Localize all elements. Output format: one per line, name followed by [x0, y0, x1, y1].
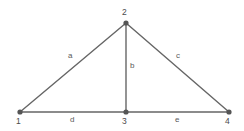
edge-label-b: b [130, 62, 134, 70]
vertex-label-4: 4 [225, 117, 230, 126]
edge-label-d: d [70, 116, 74, 124]
vertex-label-2: 2 [122, 8, 127, 17]
edge-a-line[interactable] [20, 23, 126, 112]
vertices-group [17, 20, 231, 114]
vertex-label-3: 3 [122, 117, 127, 126]
edges-group [20, 23, 229, 112]
vertex-2-dot[interactable] [123, 20, 128, 25]
edge-label-e: e [175, 116, 179, 124]
edge-label-c: c [176, 52, 180, 60]
vertex-1-dot[interactable] [17, 109, 22, 114]
edge-c-line[interactable] [126, 23, 229, 112]
vertex-label-1: 1 [16, 117, 21, 126]
vertex-4-dot[interactable] [226, 109, 231, 114]
diagram-canvas: 1 2 3 4 a b c d e [0, 0, 244, 131]
graph-svg [0, 0, 244, 131]
vertex-3-dot[interactable] [123, 109, 128, 114]
edge-label-a: a [68, 52, 72, 60]
